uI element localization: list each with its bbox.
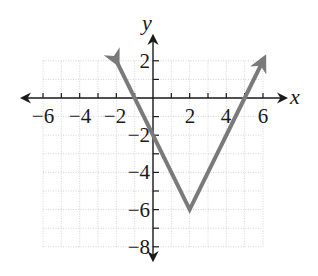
x-tick-label: −2	[104, 104, 126, 128]
x-tick-label: −6	[32, 104, 54, 128]
y-tick-label: −8	[128, 235, 150, 259]
coordinate-plane: −6 −4 −2 2 4 6 2 −2 −4 −6 −8 x y	[0, 0, 318, 276]
y-tick-label: −4	[128, 160, 151, 184]
x-tick-label: 2	[185, 104, 196, 128]
y-tick-label: 2	[140, 49, 151, 73]
x-tick-label: 6	[258, 104, 269, 128]
y-tick-label: −6	[128, 198, 150, 222]
x-axis-label: x	[289, 84, 300, 109]
x-tick-label: −4	[69, 104, 92, 128]
y-axis-label: y	[140, 10, 152, 35]
